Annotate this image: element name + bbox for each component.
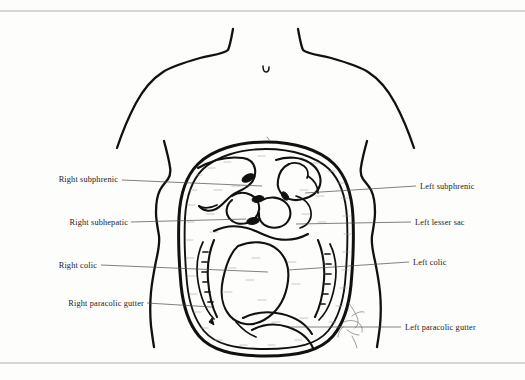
leader-right-paracolic-gutter <box>147 303 212 307</box>
descending-colon <box>315 240 324 317</box>
label-group-right: Left subphrenic Left lesser sac Left col… <box>288 182 476 332</box>
transverse-colon <box>214 226 308 239</box>
small-bowel-mass <box>222 242 289 324</box>
leader-left-subphrenic <box>305 186 416 193</box>
label-left-lesser-sac: Left lesser sac <box>415 218 465 227</box>
ascending-colon-haustra <box>197 242 214 319</box>
abdominal-cavity <box>179 142 364 356</box>
artist-signature <box>338 303 364 348</box>
leader-right-subhepatic <box>131 219 246 222</box>
anatomical-figure: Right subphrenic Right subhepatic Right … <box>0 0 525 380</box>
label-left-colic: Left colic <box>413 258 447 267</box>
descending-colon-haustra <box>319 244 336 320</box>
torso-outline <box>117 29 414 347</box>
label-group-left: Right subphrenic Right subhepatic Right … <box>59 175 268 308</box>
label-right-subhepatic: Right subhepatic <box>70 218 129 227</box>
leader-right-colic <box>101 265 268 272</box>
label-left-paracolic-gutter: Left paracolic gutter <box>405 323 476 332</box>
label-right-colic: Right colic <box>59 261 97 270</box>
label-right-subphrenic: Right subphrenic <box>59 175 118 184</box>
label-left-subphrenic: Left subphrenic <box>420 182 475 191</box>
leader-left-colic <box>288 262 409 270</box>
abdominal-wall-outer <box>179 142 354 356</box>
ascending-colon <box>208 240 217 317</box>
label-right-paracolic-gutter: Right paracolic gutter <box>68 299 144 308</box>
